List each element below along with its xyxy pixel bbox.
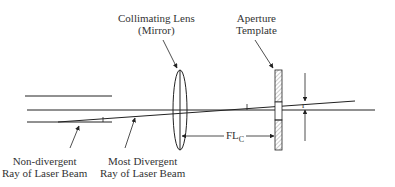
divergent-ray: [58, 101, 355, 122]
aperture-template-gap: [275, 102, 282, 120]
lens-label: Collimating Lens (Mirror): [118, 12, 195, 36]
aperture-template-top: [275, 70, 282, 102]
radius-label: r: [302, 99, 305, 111]
aperture-template-bottom: [275, 120, 282, 150]
nondivergent-ray-label: Non-divergent Ray of Laser Beam: [2, 155, 87, 179]
most-divergent-ray-label: Most Divergent Ray of Laser Beam: [100, 155, 185, 179]
aperture-label: Aperture Template: [236, 12, 277, 36]
focal-length-label: FLC: [224, 129, 246, 146]
